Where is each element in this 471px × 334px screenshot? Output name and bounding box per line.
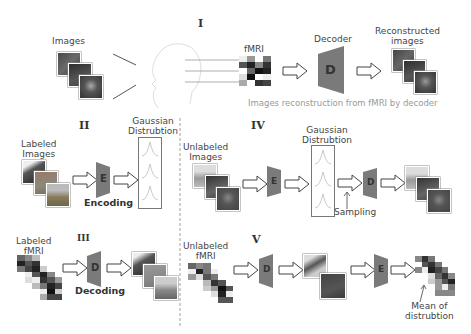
- head-silhouette-icon: [150, 42, 205, 110]
- fmri-grid: [239, 56, 271, 86]
- unlabeled-fmri-label: Unlabeled fMRI: [183, 241, 228, 261]
- arrow-right-icon: [113, 172, 139, 188]
- encoder-letter: E: [271, 176, 277, 186]
- encoding-label: Encoding: [84, 197, 133, 208]
- labeled-images-line1: Labeled: [21, 139, 57, 149]
- unlabeled-images-line2: Images: [189, 152, 222, 162]
- gaussian-line1: Gaussian: [306, 125, 347, 135]
- unlabeled-fmri-line2: fMRI: [196, 251, 216, 261]
- decoder-label: Decoder: [314, 34, 352, 44]
- section-I-caption: Images reconstruction from fMRI by decod…: [248, 98, 438, 108]
- arrow-right-icon: [350, 262, 376, 278]
- gaussian-line1: Gaussian: [132, 116, 173, 126]
- arrow-right-icon: [233, 262, 259, 278]
- reconstructed-line1: Reconstructed: [375, 26, 440, 36]
- fmri-label: fMRI: [244, 44, 264, 54]
- arrow-right-icon: [337, 175, 363, 191]
- encoder-letter: E: [100, 173, 107, 184]
- labeled-fmri-label: Labeled fMRI: [16, 236, 52, 256]
- arrow-right-icon: [106, 260, 132, 276]
- arrow-right-icon: [380, 175, 406, 191]
- gaussian-distribution-label-iv: Gaussian Distrubtion: [302, 125, 352, 145]
- section-numeral-II: II: [79, 119, 89, 132]
- section-numeral-V: V: [252, 233, 261, 246]
- arrow-right-icon: [390, 262, 416, 278]
- unlabeled-fmri-grid: [188, 263, 233, 303]
- mean-pointer-arrow-icon: [418, 284, 426, 302]
- arrow-right-icon: [72, 172, 98, 188]
- arrow-right-icon: [284, 176, 310, 192]
- section-numeral-IV: IV: [251, 119, 265, 132]
- gaussian-line2: Distrubtion: [302, 135, 352, 145]
- arrow-right-icon: [356, 63, 382, 79]
- unlabeled-images-line1: Unlabeled: [183, 142, 228, 152]
- sampling-label: Sampling: [334, 207, 376, 217]
- arrow-right-icon: [278, 262, 304, 278]
- mean-of-distribution-label: Mean of distrubtion: [405, 301, 454, 321]
- labeled-fmri-grid: [17, 255, 62, 300]
- arrow-right-icon: [282, 63, 308, 79]
- labeled-images-line2: Images: [22, 149, 55, 159]
- gaussian-distribution-label: Gaussian Distrubtion: [128, 116, 178, 136]
- unlabeled-images-label: Unlabeled Images: [183, 142, 228, 162]
- reconstructed-images-label: Reconstructed images: [375, 26, 440, 46]
- encoder-letter: E: [378, 264, 384, 274]
- reconstructed-line2: images: [391, 36, 424, 46]
- mean-label-line1: Mean of: [411, 301, 447, 311]
- labeled-fmri-line1: Labeled: [16, 236, 52, 246]
- arrow-right-icon: [242, 176, 268, 192]
- gaussian-curves-icon: [139, 138, 161, 208]
- gaussian-line2: Distrubtion: [128, 126, 178, 136]
- decoder-letter: D: [263, 264, 270, 274]
- mean-label-line2: distrubtion: [405, 311, 454, 321]
- decoder-letter: D: [325, 62, 336, 77]
- decoding-label: Decoding: [75, 285, 125, 296]
- arrow-right-icon: [62, 260, 88, 276]
- gaussian-curves-icon: [312, 146, 334, 216]
- unlabeled-fmri-line1: Unlabeled: [183, 241, 228, 251]
- section-numeral-III: III: [77, 233, 90, 243]
- labeled-images-label: Labeled Images: [21, 139, 57, 159]
- decoder-letter: D: [367, 177, 374, 187]
- decoder-letter: D: [91, 262, 99, 273]
